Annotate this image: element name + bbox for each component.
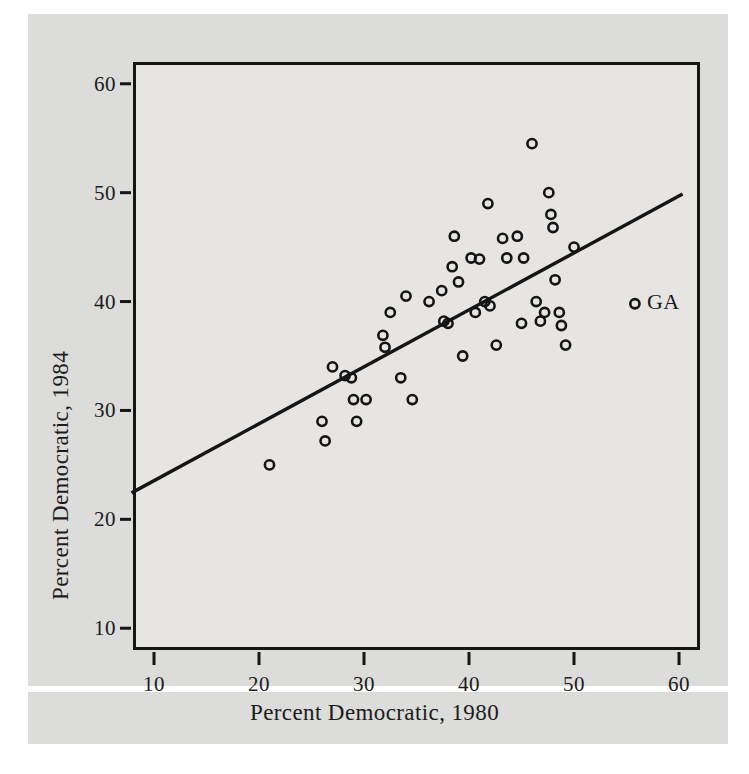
x-tick-label-50: 50 [563, 672, 585, 697]
y-axis-title: Percent Democratic, 1984 [48, 351, 74, 600]
scatter-plot-figure: 102030405060 102030405060 Percent Democr… [0, 0, 749, 774]
x-axis-title: Percent Democratic, 1980 [0, 700, 749, 726]
x-tick-label-30: 30 [353, 672, 375, 697]
y-tick-label-40: 40 [60, 289, 116, 314]
x-tick-label-20: 20 [248, 672, 270, 697]
y-tick-label-60: 60 [60, 71, 116, 96]
x-tick-label-40: 40 [458, 672, 480, 697]
plot-frame [133, 62, 700, 650]
x-tick-label-60: 60 [668, 672, 690, 697]
x-tick-label-10: 10 [143, 672, 165, 697]
y-tick-label-50: 50 [60, 180, 116, 205]
annotation-label-ga: GA [647, 289, 680, 315]
y-tick-label-10: 10 [60, 616, 116, 641]
